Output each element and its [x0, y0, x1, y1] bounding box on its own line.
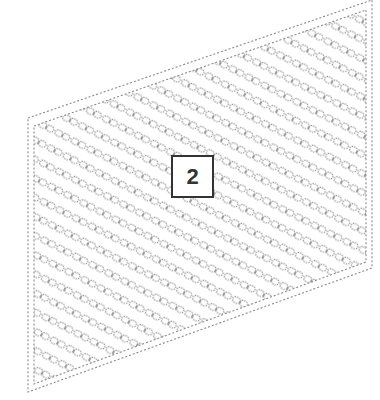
chain-mesh	[0, 0, 380, 400]
mesh-panel-drawing	[0, 0, 380, 400]
reference-numeral-label: 2	[171, 155, 214, 198]
reference-numeral-text: 2	[186, 164, 198, 190]
